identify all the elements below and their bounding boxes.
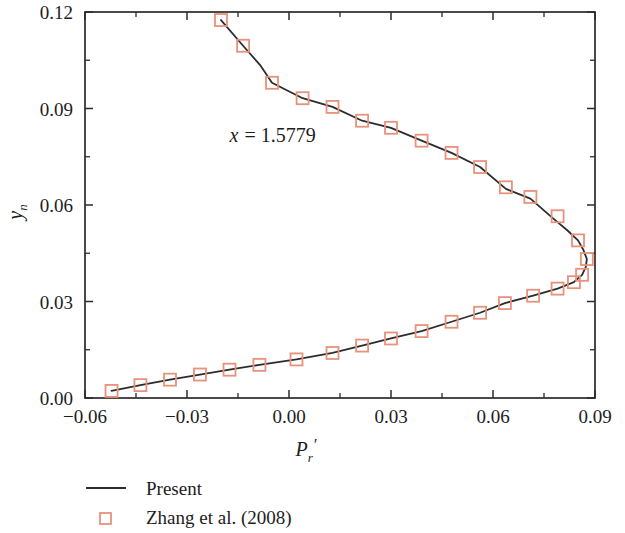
data-point-marker — [416, 325, 428, 337]
y-tick-label: 0.03 — [40, 292, 73, 313]
data-point-marker — [576, 269, 588, 281]
x-tick-label: 0.06 — [476, 406, 509, 427]
x-tick-label: −0.03 — [165, 406, 209, 427]
data-point-marker — [327, 347, 339, 359]
x-tick-label: −0.06 — [63, 406, 107, 427]
line-chart: −0.06−0.030.000.030.060.090.000.030.060.… — [0, 0, 625, 533]
data-point-marker — [194, 369, 206, 381]
data-point-marker — [527, 290, 539, 302]
data-point-marker — [224, 364, 236, 376]
data-point-marker — [446, 147, 458, 159]
data-point-marker — [385, 332, 397, 344]
legend-label-zhang: Zhang et al. (2008) — [146, 507, 292, 529]
data-point-marker — [327, 101, 339, 113]
data-point-marker — [253, 359, 265, 371]
data-point-marker — [581, 253, 593, 265]
data-point-marker — [164, 374, 176, 386]
y-tick-label: 0.06 — [40, 195, 73, 216]
data-point-marker — [474, 161, 486, 173]
y-tick-label: 0.09 — [40, 99, 73, 120]
data-point-marker — [215, 14, 227, 26]
data-point-marker — [297, 92, 309, 104]
data-point-marker — [385, 122, 397, 134]
data-point-marker — [237, 40, 249, 52]
y-tick-label: 0.00 — [40, 388, 73, 409]
data-point-marker — [524, 191, 536, 203]
legend-label-present: Present — [146, 478, 203, 499]
data-point-marker — [266, 77, 278, 89]
data-point-marker — [106, 385, 118, 397]
data-point-marker — [290, 353, 302, 365]
data-point-marker — [356, 340, 368, 352]
data-point-marker — [500, 181, 512, 193]
data-point-marker — [446, 316, 458, 328]
x-tick-label: 0.09 — [578, 406, 611, 427]
data-point-marker — [356, 115, 368, 127]
data-point-marker — [416, 135, 428, 147]
data-point-marker — [552, 210, 564, 222]
y-tick-label: 0.12 — [40, 2, 73, 23]
data-point-marker — [499, 297, 511, 309]
x-tick-label: 0.03 — [374, 406, 407, 427]
data-point-marker — [474, 307, 486, 319]
legend-square-swatch — [100, 513, 111, 524]
x-tick-label: 0.00 — [272, 406, 305, 427]
data-point-marker — [552, 283, 564, 295]
data-point-marker — [134, 379, 146, 391]
figure-container: −0.06−0.030.000.030.060.090.000.030.060.… — [0, 0, 625, 533]
data-point-marker — [572, 234, 584, 246]
